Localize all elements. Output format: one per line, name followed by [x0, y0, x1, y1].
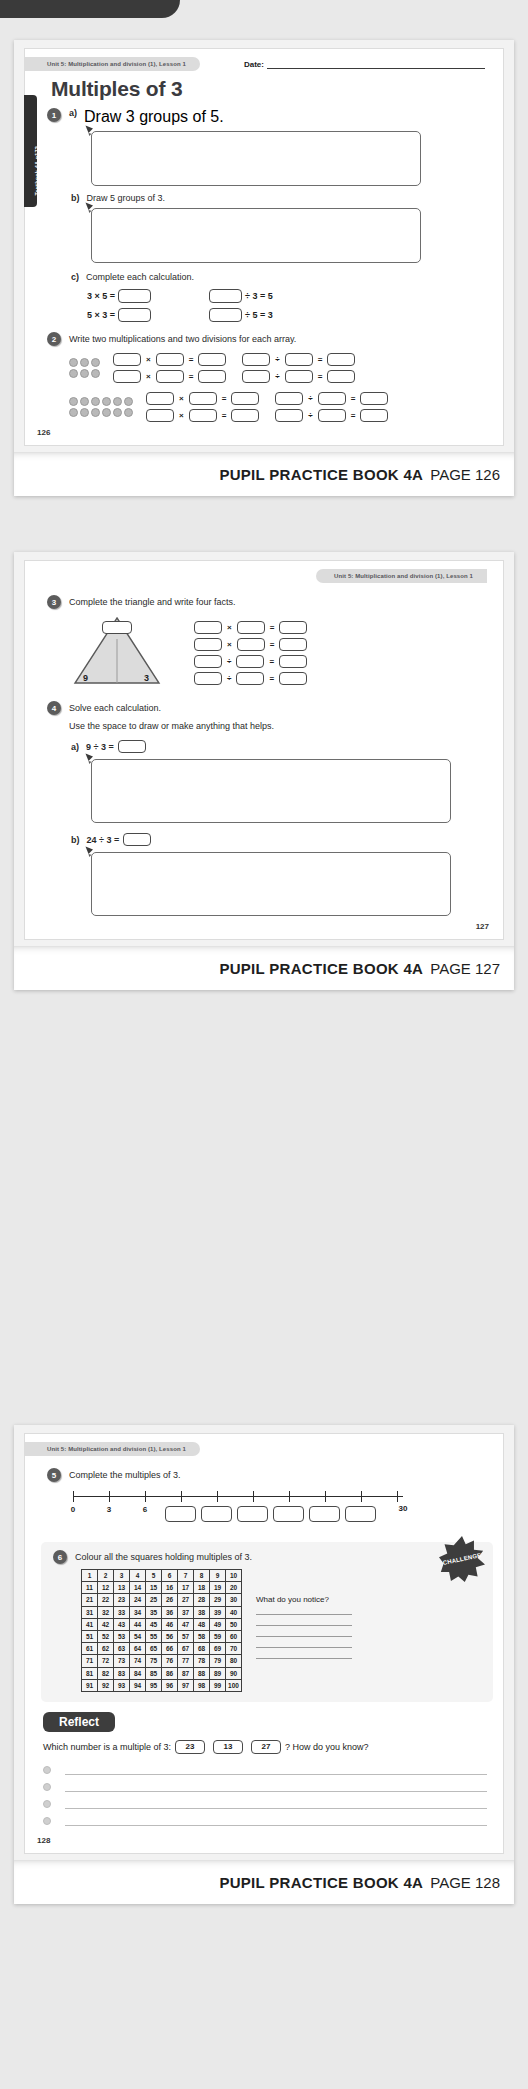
date-input-line-126[interactable]: [267, 60, 485, 69]
hundred-square-cell[interactable]: 9: [210, 1570, 226, 1582]
hundred-square-cell[interactable]: 42: [98, 1618, 114, 1630]
number-line-box[interactable]: [273, 1506, 304, 1522]
fact-box[interactable]: [237, 638, 265, 651]
q4a-draw-box[interactable]: [91, 759, 451, 823]
hundred-square-cell[interactable]: 60: [226, 1630, 242, 1642]
hundred-square-cell[interactable]: 55: [146, 1630, 162, 1642]
calc-answer-box[interactable]: [209, 289, 242, 303]
equation-box[interactable]: [242, 370, 270, 383]
hundred-square-cell[interactable]: 63: [114, 1643, 130, 1655]
notice-answer-line[interactable]: [256, 1615, 352, 1626]
hundred-square-cell[interactable]: 84: [130, 1667, 146, 1679]
equation-box[interactable]: [242, 353, 270, 366]
equation-box[interactable]: [146, 409, 174, 422]
equation-box[interactable]: [231, 392, 259, 405]
hundred-square-cell[interactable]: 79: [210, 1655, 226, 1667]
q4a-answer-box[interactable]: [118, 740, 146, 753]
hundred-square-cell[interactable]: 71: [82, 1655, 98, 1667]
hundred-square-cell[interactable]: 96: [162, 1679, 178, 1691]
hundred-square-cell[interactable]: 13: [114, 1582, 130, 1594]
notice-answer-line[interactable]: [256, 1626, 352, 1637]
q1b-draw-box[interactable]: [91, 208, 421, 263]
hundred-square-cell[interactable]: 95: [146, 1679, 162, 1691]
hundred-square-grid[interactable]: 1234567891011121314151617181920212223242…: [81, 1569, 242, 1692]
equation-box[interactable]: [285, 353, 313, 366]
hundred-square-cell[interactable]: 45: [146, 1618, 162, 1630]
hundred-square-cell[interactable]: 72: [98, 1655, 114, 1667]
q4b-draw-area[interactable]: [91, 852, 503, 916]
q4b-draw-box[interactable]: [91, 852, 451, 916]
notice-answer-line[interactable]: [256, 1604, 352, 1615]
hundred-square-cell[interactable]: 89: [210, 1667, 226, 1679]
calc-answer-box[interactable]: [118, 308, 151, 322]
hundred-square-cell[interactable]: 77: [178, 1655, 194, 1667]
hundred-square-cell[interactable]: 46: [162, 1618, 178, 1630]
hundred-square-cell[interactable]: 73: [114, 1655, 130, 1667]
fact-box[interactable]: [194, 655, 222, 668]
hundred-square-cell[interactable]: 91: [82, 1679, 98, 1691]
hundred-square-cell[interactable]: 90: [226, 1667, 242, 1679]
hundred-square-cell[interactable]: 4: [130, 1570, 146, 1582]
hundred-square-cell[interactable]: 31: [82, 1606, 98, 1618]
hundred-square-cell[interactable]: 43: [114, 1618, 130, 1630]
hundred-square-cell[interactable]: 100: [226, 1679, 242, 1691]
hundred-square-cell[interactable]: 35: [146, 1606, 162, 1618]
hundred-square-cell[interactable]: 76: [162, 1655, 178, 1667]
hundred-square-cell[interactable]: 23: [114, 1594, 130, 1606]
hundred-square-cell[interactable]: 68: [194, 1643, 210, 1655]
reflect-answer-line[interactable]: [65, 1817, 487, 1826]
hundred-square-cell[interactable]: 48: [194, 1618, 210, 1630]
hundred-square-cell[interactable]: 17: [178, 1582, 194, 1594]
hundred-square-cell[interactable]: 80: [226, 1655, 242, 1667]
hundred-square-cell[interactable]: 81: [82, 1667, 98, 1679]
hundred-square-cell[interactable]: 49: [210, 1618, 226, 1630]
number-line-box[interactable]: [345, 1506, 376, 1522]
hundred-square-cell[interactable]: 33: [114, 1606, 130, 1618]
fact-box[interactable]: [194, 672, 222, 685]
hundred-square-cell[interactable]: 11: [82, 1582, 98, 1594]
hundred-square-cell[interactable]: 5: [146, 1570, 162, 1582]
fact-box[interactable]: [194, 638, 222, 651]
hundred-square-cell[interactable]: 16: [162, 1582, 178, 1594]
equation-box[interactable]: [113, 353, 141, 366]
hundred-square-cell[interactable]: 15: [146, 1582, 162, 1594]
fact-box[interactable]: [194, 621, 222, 634]
equation-box[interactable]: [285, 370, 313, 383]
equation-box[interactable]: [327, 353, 355, 366]
q1a-draw-area[interactable]: [91, 131, 503, 186]
hundred-square-cell[interactable]: 1: [82, 1570, 98, 1582]
equation-box[interactable]: [275, 392, 303, 405]
fact-box[interactable]: [279, 638, 307, 651]
hundred-square-cell[interactable]: 52: [98, 1630, 114, 1642]
hundred-square-cell[interactable]: 66: [162, 1643, 178, 1655]
hundred-square-cell[interactable]: 28: [194, 1594, 210, 1606]
equation-box[interactable]: [318, 409, 346, 422]
hundred-square-cell[interactable]: 56: [162, 1630, 178, 1642]
calc-answer-box[interactable]: [209, 308, 242, 322]
fact-box[interactable]: [279, 621, 307, 634]
number-line-box[interactable]: [165, 1506, 196, 1522]
hundred-square-cell[interactable]: 74: [130, 1655, 146, 1667]
notice-answer-line[interactable]: [256, 1637, 352, 1648]
hundred-square-cell[interactable]: 39: [210, 1606, 226, 1618]
q1b-draw-area[interactable]: [91, 208, 503, 263]
number-line-box[interactable]: [237, 1506, 268, 1522]
equation-box[interactable]: [198, 370, 226, 383]
hundred-square-cell[interactable]: 83: [114, 1667, 130, 1679]
hundred-square-cell[interactable]: 34: [130, 1606, 146, 1618]
triangle-top-box[interactable]: [102, 621, 132, 634]
hundred-square-cell[interactable]: 32: [98, 1606, 114, 1618]
hundred-square-cell[interactable]: 24: [130, 1594, 146, 1606]
hundred-square-cell[interactable]: 8: [194, 1570, 210, 1582]
hundred-square-cell[interactable]: 21: [82, 1594, 98, 1606]
fact-box[interactable]: [236, 655, 264, 668]
hundred-square-cell[interactable]: 19: [210, 1582, 226, 1594]
hundred-square-cell[interactable]: 3: [114, 1570, 130, 1582]
hundred-square-cell[interactable]: 18: [194, 1582, 210, 1594]
hundred-square-cell[interactable]: 97: [178, 1679, 194, 1691]
hundred-square-cell[interactable]: 61: [82, 1643, 98, 1655]
hundred-square-cell[interactable]: 30: [226, 1594, 242, 1606]
hundred-square-cell[interactable]: 14: [130, 1582, 146, 1594]
equation-box[interactable]: [198, 353, 226, 366]
hundred-square-cell[interactable]: 93: [114, 1679, 130, 1691]
